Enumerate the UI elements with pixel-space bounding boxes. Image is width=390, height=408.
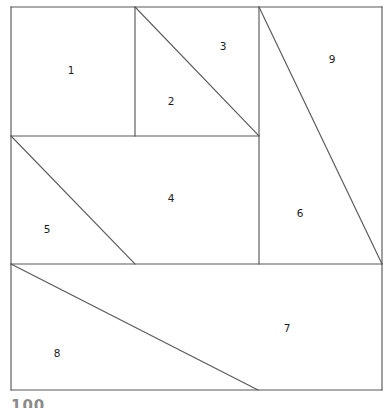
region-label-5: 5 bbox=[44, 223, 51, 235]
region-fills bbox=[11, 7, 382, 390]
cut-off-caption: 100 bbox=[11, 399, 45, 408]
region-label-1: 1 bbox=[68, 64, 75, 76]
region-label-8: 8 bbox=[54, 347, 61, 359]
region-label-4: 4 bbox=[168, 192, 175, 204]
region-label-3: 3 bbox=[220, 40, 227, 52]
region-label-2: 2 bbox=[168, 95, 175, 107]
region-label-7: 7 bbox=[284, 322, 291, 334]
region-label-6: 6 bbox=[297, 207, 304, 219]
region-label-9: 9 bbox=[329, 53, 336, 65]
